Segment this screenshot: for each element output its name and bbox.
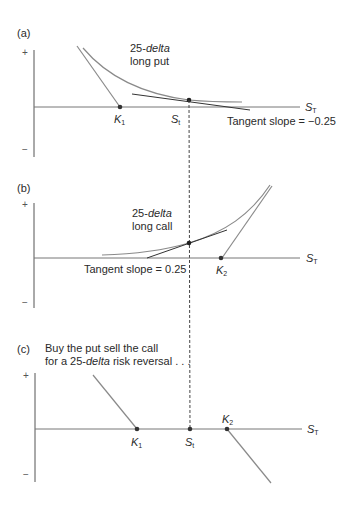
panel-b-title-line2: long call (132, 220, 172, 232)
panel-c-k2-label: K2 (222, 413, 233, 429)
panel-a-minus-sign: − (22, 144, 28, 155)
panel-b-minus-sign: − (22, 297, 28, 308)
panel-c-plus-sign: + (23, 370, 29, 381)
panel-a-title-line2: long put (130, 55, 169, 67)
risk-reversal-diagram (0, 0, 351, 507)
panel-c-st-label: St (185, 436, 194, 452)
panel-b-plot (34, 185, 300, 308)
panel-c-label: (c) (17, 343, 30, 355)
panel-c-caption-line1: Buy the put sell the call (45, 342, 158, 354)
panel-c-st-dot (188, 427, 193, 432)
panel-b-title-line1: 25-delta (132, 207, 172, 219)
panel-c-minus-sign: − (23, 469, 29, 480)
spot-dashed-line (189, 100, 190, 429)
panel-b-k2-dot (219, 256, 224, 261)
panel-c-k1-label: K1 (131, 436, 142, 452)
panel-c-plot (35, 373, 302, 483)
panel-a-st-label: St (171, 113, 180, 129)
panel-a-tangent-slope-label: Tangent slope = −0.25 (227, 115, 336, 127)
panel-c-caption-line2: for a 25-delta risk reversal . . . (45, 355, 191, 367)
panel-a-put-payoff-line (77, 46, 120, 107)
panel-b-call-payoff-line (222, 186, 272, 258)
panel-b-st-axis-label: ST (306, 252, 318, 268)
panel-c-put-payoff-line (93, 375, 137, 429)
panel-c-short-call-payoff-line (227, 429, 271, 483)
panel-a-title-line1: 25-delta (130, 42, 170, 54)
panel-b-tangent-slope-label: Tangent slope = 0.25 (84, 263, 186, 275)
panel-b-label: (b) (17, 182, 30, 194)
panel-c-k1-dot (135, 427, 140, 432)
panel-b-plus-sign: + (22, 199, 28, 210)
panel-b-k2-label: K2 (216, 264, 227, 280)
panel-a-k1-dot (118, 105, 123, 110)
panel-c-st-axis-label: ST (307, 423, 319, 439)
panel-a-k1-label: K1 (114, 113, 125, 129)
panel-a-plus-sign: + (22, 47, 28, 58)
panel-b-st-dot (187, 241, 192, 246)
panel-a-label: (a) (17, 27, 30, 39)
